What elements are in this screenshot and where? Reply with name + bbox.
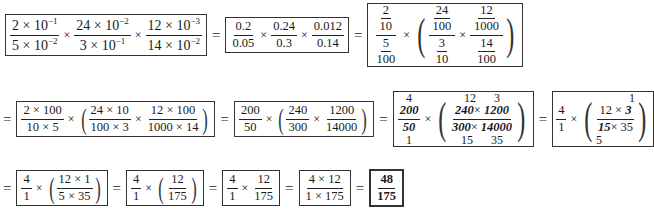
numerator: 1200 <box>484 103 509 117</box>
left-parenthesis: ( <box>158 173 164 203</box>
denominator: 5 × 35 <box>57 189 93 203</box>
compound-fraction: 24100 310 <box>429 4 456 66</box>
times-operator: × <box>145 181 152 196</box>
denominator: 100 <box>431 19 454 33</box>
denominator: 1 <box>227 189 237 203</box>
left-parenthesis: ( <box>81 104 87 134</box>
times-operator: × <box>266 112 273 127</box>
numerator: 240 <box>455 103 474 117</box>
compound-fraction: 210 5100 <box>372 4 399 66</box>
denominator: 0.3 <box>274 36 294 50</box>
equals-sign: = <box>3 180 11 197</box>
denominator: 1 × 175 <box>304 189 346 203</box>
cancel-result: 1 <box>406 134 412 146</box>
expression-box-scientific: 2 × 10−1 5 × 10−2 × 24 × 10−2 3 × 10−1 ×… <box>5 14 207 56</box>
cancelled-fraction: 1 12 × 3 15× 35 5 <box>596 92 635 145</box>
expression-box-reduced: 41 × ( 1 12 × 3 15× 35 5 ) <box>552 91 654 146</box>
expression-box-step-d: 4 × 121 × 175 <box>299 170 351 205</box>
right-parenthesis: ) <box>638 97 646 141</box>
denominator: 300 <box>452 120 471 134</box>
numerator: 4 <box>556 104 566 119</box>
exponent: −2 <box>119 16 129 26</box>
cancel-result: 35 <box>491 134 503 146</box>
exponent: −2 <box>48 36 58 46</box>
cancelled-fraction: 4 20050 1 <box>398 92 421 145</box>
times-operator: × <box>471 120 478 134</box>
equals-sign: = <box>539 111 547 128</box>
times-operator: × <box>260 28 267 43</box>
right-parenthesis: ) <box>506 13 514 57</box>
exponent: −3 <box>190 16 200 26</box>
denominator: 0.05 <box>230 36 256 50</box>
denominator: 50 <box>401 120 418 134</box>
fraction: 20050 <box>239 104 262 133</box>
left-parenthesis: ( <box>279 104 285 134</box>
exponent: −1 <box>116 36 126 46</box>
fraction: 12175 <box>252 173 275 202</box>
times-operator: × <box>242 181 249 196</box>
denominator: 1 <box>21 189 31 203</box>
right-parenthesis: ) <box>203 104 209 134</box>
equals-sign: = <box>113 180 121 197</box>
exponent: −1 <box>48 16 58 26</box>
cancelled-fraction: 123 240× 1200 300× 14000 1535 <box>450 92 514 145</box>
numerator: 0.2 <box>234 20 254 35</box>
denominator: 100 <box>374 52 397 66</box>
equation-row-1: 2 × 10−1 5 × 10−2 × 24 × 10−2 3 × 10−1 ×… <box>0 0 523 70</box>
fraction: 240300 <box>286 104 309 133</box>
denominator: 14000 <box>324 120 359 134</box>
denominator: 1 <box>131 189 141 203</box>
fraction: 12175 <box>166 173 189 202</box>
equals-sign: = <box>285 180 293 197</box>
expression-box-step-c: 41 × 12175 <box>222 170 280 205</box>
numerator: 3 <box>437 37 447 52</box>
denominator: 15 <box>598 120 611 134</box>
times-operator: × <box>36 181 43 196</box>
numerator: 3 <box>625 103 631 117</box>
fraction: 24 × 10100 × 3 <box>89 104 131 133</box>
equation-row-3: = 41 × ( 12 × 15 × 35 ) = 41 × ( 12175 )… <box>0 165 404 211</box>
left-parenthesis: ( <box>585 97 593 141</box>
equals-sign: = <box>220 111 228 128</box>
numerator: 200 <box>398 104 421 119</box>
fraction: 12 × 1001000 × 14 <box>146 104 201 133</box>
numerator: 4 <box>227 173 237 188</box>
times-operator: × <box>301 28 308 43</box>
numerator: 200 <box>239 104 262 119</box>
numerator: 1200 <box>327 104 356 119</box>
denominator: 10 × 5 <box>25 120 61 134</box>
numerator: 12 × 1 <box>57 173 93 188</box>
fraction: 120014000 <box>324 104 359 133</box>
denominator: 100 <box>475 52 498 66</box>
equals-sign: = <box>3 111 11 128</box>
denominator: 175 <box>166 189 189 203</box>
left-parenthesis: ( <box>49 173 55 203</box>
times-operator: × <box>135 28 142 43</box>
fraction: 41 <box>556 104 566 133</box>
fraction: 41 <box>227 173 237 202</box>
numerator: 12 <box>169 173 186 188</box>
numerator: 4 <box>131 173 141 188</box>
times-operator: × <box>570 112 577 127</box>
expression-box-multiplied: 20050 × ( 240300 × 120014000 ) <box>234 101 374 137</box>
fraction: 0.0120.14 <box>312 20 344 49</box>
times-operator: × <box>135 112 142 127</box>
compound-fraction: 121000 14100 <box>470 4 503 66</box>
denominator: 14000 <box>481 120 512 134</box>
fraction: 12 × 10−3 14 × 10−2 <box>146 17 202 53</box>
cancel-result: 15 <box>461 134 473 146</box>
fraction: 0.20.05 <box>230 20 256 49</box>
numerator: 240 <box>286 104 309 119</box>
fraction: 41 <box>131 173 141 202</box>
denominator: 175 <box>252 189 275 203</box>
numerator: 5 <box>381 37 391 52</box>
denominator: 1000 × 14 <box>146 120 201 134</box>
equals-sign: = <box>212 27 220 44</box>
numerator: 12 <box>478 4 495 19</box>
left-parenthesis: ( <box>417 13 425 57</box>
exponent: −2 <box>190 36 200 46</box>
denominator: 14 × 10 <box>148 37 191 52</box>
expression-box-step-b: 41 × ( 12175 ) <box>126 170 204 206</box>
numerator: 24 <box>434 4 451 19</box>
numerator: 4 <box>21 173 31 188</box>
